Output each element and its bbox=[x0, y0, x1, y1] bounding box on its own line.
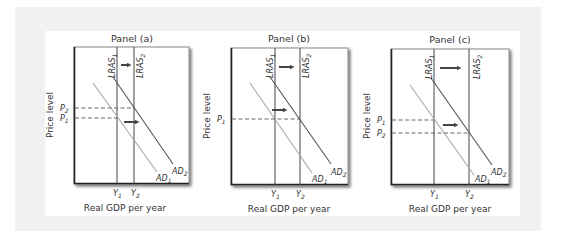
p2-label: P2 bbox=[377, 129, 386, 139]
x-axis-title: Real GDP per year bbox=[248, 204, 331, 214]
y1-label: Y1 bbox=[430, 190, 439, 200]
panel-b: Panel (b) LRAS1 LRAS2 AD1 AD2 P1 Y1 Y2 R… bbox=[202, 33, 348, 214]
x-axis-title: Real GDP per year bbox=[84, 203, 167, 213]
plot-area bbox=[231, 48, 348, 185]
y1-label: Y1 bbox=[113, 189, 122, 199]
y2-label: Y2 bbox=[296, 190, 305, 200]
y-axis-title: Price level bbox=[362, 93, 372, 139]
panel-a: Panel (a) LRAS1 LRAS2 AD1 AD2 P2 P1 Y1 Y… bbox=[45, 33, 189, 213]
y-axis-title: Price level bbox=[202, 93, 212, 139]
figure-svg: Panel (a) LRAS1 LRAS2 AD1 AD2 P2 P1 Y1 Y… bbox=[0, 0, 565, 246]
y2-label: Y2 bbox=[465, 190, 474, 200]
p1-label: P1 bbox=[377, 116, 386, 126]
p2-label: P2 bbox=[60, 104, 69, 114]
p1-label: P1 bbox=[60, 114, 69, 124]
y1-label: Y1 bbox=[271, 190, 280, 200]
x-axis-title: Real GDP per year bbox=[409, 204, 492, 214]
p1-label: P1 bbox=[217, 115, 226, 125]
panel-title: Panel (c) bbox=[429, 34, 470, 45]
panel-c: Panel (c) LRAS1 LRAS2 AD1 AD2 P1 P2 Y1 Y… bbox=[362, 34, 509, 214]
plot-area bbox=[74, 47, 189, 184]
y2-label: Y2 bbox=[131, 189, 140, 199]
panel-title: Panel (b) bbox=[268, 33, 310, 44]
panel-title: Panel (a) bbox=[111, 33, 153, 44]
y-axis-title: Price level bbox=[45, 92, 55, 138]
